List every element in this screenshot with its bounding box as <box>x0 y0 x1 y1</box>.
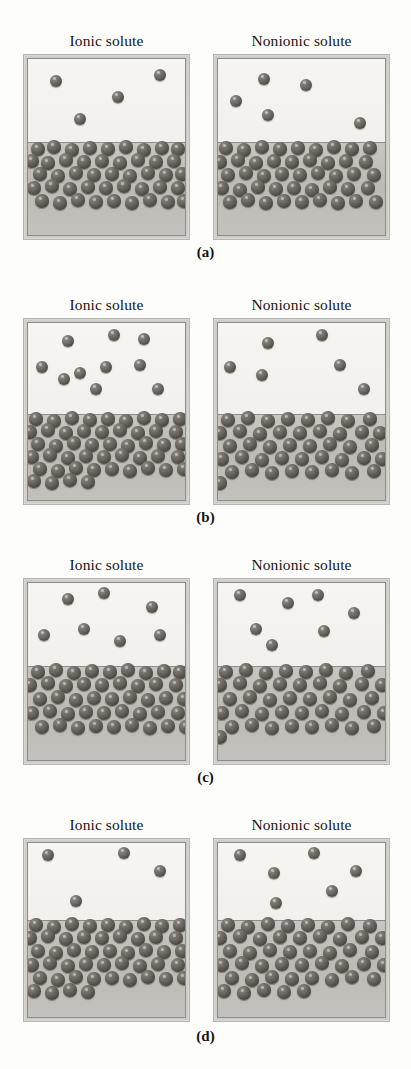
liquid-particle <box>151 449 164 462</box>
vapor-particle <box>62 335 74 347</box>
liquid-particle <box>333 679 346 692</box>
liquid-particle <box>367 168 380 181</box>
vapor-particle <box>146 601 158 613</box>
liquid-particle <box>233 676 246 689</box>
liquid-particle <box>81 475 94 488</box>
liquid-particle <box>223 195 236 208</box>
liquid-particle <box>295 452 308 465</box>
liquid-particle <box>27 931 37 944</box>
vapor-particle <box>350 865 362 877</box>
liquid-particle <box>59 153 72 166</box>
liquid-particle <box>355 930 368 943</box>
panel-column-headings: Ionic soluteNonionic solute <box>0 552 411 578</box>
liquid-particle <box>141 166 154 179</box>
liquid-particle <box>293 678 306 691</box>
liquid-particle <box>87 691 100 704</box>
liquid-particle <box>27 706 39 719</box>
vapor-particle <box>268 867 280 879</box>
liquid-particle <box>235 704 248 717</box>
liquid-particle <box>339 666 352 679</box>
liquid-particle <box>149 930 162 943</box>
liquid-particle <box>361 181 374 194</box>
liquid-particle <box>315 956 328 969</box>
liquid-particle <box>285 464 298 477</box>
liquid-particle <box>225 465 238 478</box>
liquid-particle <box>225 971 238 984</box>
liquid-particle <box>331 196 344 209</box>
liquid-particle <box>45 476 58 489</box>
liquid-particle <box>285 155 298 168</box>
liquid-particle <box>295 195 308 208</box>
liquid-particle <box>105 971 118 984</box>
vapor-particle <box>316 329 328 341</box>
vapor-particle <box>100 361 112 373</box>
nonionic-solute-beaker <box>213 838 390 1022</box>
liquid-particle <box>89 719 102 732</box>
liquid-particle <box>169 931 182 944</box>
liquid-particle <box>97 958 110 971</box>
liquid-particle <box>85 664 98 677</box>
liquid-particle <box>107 720 120 733</box>
liquid-particle <box>339 154 352 167</box>
panel-column-headings: Ionic soluteNonionic solute <box>0 292 411 318</box>
liquid-particle <box>113 423 126 436</box>
vapor-particle <box>58 373 70 385</box>
vapor-particle <box>234 589 246 601</box>
liquid-particle <box>295 958 308 971</box>
vapor-phase <box>28 59 185 145</box>
panel-a: Ionic soluteNonionic solute(a) <box>0 28 411 272</box>
vapor-particle <box>38 629 50 641</box>
liquid-particle <box>33 692 46 705</box>
vapor-particle <box>270 897 282 909</box>
liquid-particle <box>123 690 136 703</box>
liquid-particle <box>65 917 78 930</box>
liquid-particle <box>143 193 156 206</box>
nonionic-solute-title: Nonionic solute <box>213 812 390 838</box>
liquid-particle <box>297 984 310 997</box>
vapor-phase <box>218 583 385 669</box>
liquid-particle <box>63 983 76 996</box>
vapor-particle <box>348 607 360 619</box>
liquid-particle <box>221 918 234 931</box>
vapor-particle <box>358 383 370 395</box>
liquid-particle <box>169 678 182 691</box>
liquid-particle <box>263 693 276 706</box>
vapor-particle <box>308 847 320 859</box>
liquid-particle <box>285 719 298 732</box>
liquid-particle <box>367 719 380 732</box>
vapor-particle <box>98 587 110 599</box>
liquid-particle <box>151 957 164 970</box>
liquid-particle <box>173 412 186 425</box>
liquid-particle <box>233 424 246 437</box>
liquid-particle <box>139 436 152 449</box>
nonionic-solute-beaker <box>213 318 390 505</box>
liquid-particle <box>105 462 118 475</box>
liquid-particle <box>239 663 252 676</box>
liquid-particle <box>45 179 58 192</box>
beaker-interior <box>217 582 386 761</box>
liquid-particle <box>265 721 278 734</box>
vapor-particle <box>262 109 274 121</box>
liquid-particle <box>79 957 92 970</box>
liquid-phase <box>28 142 185 235</box>
liquid-particle <box>357 451 370 464</box>
liquid-particle <box>153 180 166 193</box>
liquid-particle <box>27 181 40 194</box>
liquid-particle <box>155 141 168 154</box>
liquid-particle <box>175 437 186 450</box>
liquid-particle <box>217 706 229 719</box>
liquid-particle <box>79 449 92 462</box>
liquid-particle <box>265 466 278 479</box>
liquid-particle <box>251 180 264 193</box>
liquid-particle <box>217 476 227 489</box>
liquid-particle <box>257 983 270 996</box>
liquid-particle <box>313 676 326 689</box>
liquid-particle <box>89 195 102 208</box>
vapor-phase <box>28 583 185 669</box>
liquid-particle <box>97 706 110 719</box>
liquid-particle <box>335 707 348 720</box>
beaker-interior <box>217 58 386 236</box>
vapor-phase <box>218 323 385 417</box>
liquid-particle <box>365 691 378 704</box>
liquid-particle <box>29 412 42 425</box>
